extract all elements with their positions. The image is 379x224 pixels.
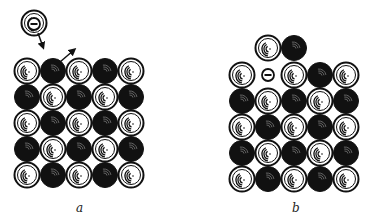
white-atom — [119, 163, 144, 188]
black-atom — [41, 163, 66, 188]
black-atom — [119, 137, 144, 162]
black-atom — [334, 141, 359, 166]
white-atom — [41, 137, 66, 162]
black-atom — [308, 115, 333, 140]
black-atom — [230, 141, 255, 166]
diagram-canvas — [0, 0, 379, 224]
black-atom — [282, 89, 307, 114]
white-atom — [334, 115, 359, 140]
white-atom — [334, 63, 359, 88]
black-atom — [15, 85, 40, 110]
white-atom — [93, 85, 118, 110]
white-atom — [282, 167, 307, 192]
white-atom — [67, 111, 92, 136]
electron-icon — [28, 18, 40, 30]
black-atom — [67, 85, 92, 110]
black-atom — [93, 163, 118, 188]
panel-b-label: b — [292, 201, 300, 215]
white-atom — [282, 63, 307, 88]
electron-icon — [262, 69, 274, 81]
white-atom — [67, 59, 92, 84]
white-atom — [308, 89, 333, 114]
black-atom — [67, 137, 92, 162]
white-atom — [93, 137, 118, 162]
white-atom — [308, 141, 333, 166]
black-atom — [41, 59, 66, 84]
black-atom — [256, 115, 281, 140]
black-atom — [308, 167, 333, 192]
black-atom — [256, 167, 281, 192]
white-atom — [230, 167, 255, 192]
white-atom — [334, 167, 359, 192]
white-atom — [15, 163, 40, 188]
black-atom — [15, 137, 40, 162]
black-atom — [41, 111, 66, 136]
white-atom — [67, 163, 92, 188]
black-atom-extra — [282, 36, 307, 61]
panel-a-label: a — [76, 201, 83, 215]
white-atom — [230, 115, 255, 140]
white-atom-extra — [256, 36, 281, 61]
white-atom — [41, 85, 66, 110]
black-atom — [282, 141, 307, 166]
white-atom — [282, 115, 307, 140]
black-atom — [230, 89, 255, 114]
white-atom — [256, 141, 281, 166]
black-atom — [93, 59, 118, 84]
white-atom — [256, 89, 281, 114]
black-atom — [93, 111, 118, 136]
white-atom — [15, 111, 40, 136]
black-atom — [308, 63, 333, 88]
white-atom — [119, 59, 144, 84]
white-atom — [230, 63, 255, 88]
black-atom — [119, 85, 144, 110]
black-atom — [334, 89, 359, 114]
incoming-arrow — [38, 33, 43, 47]
white-atom — [119, 111, 144, 136]
white-atom — [15, 59, 40, 84]
